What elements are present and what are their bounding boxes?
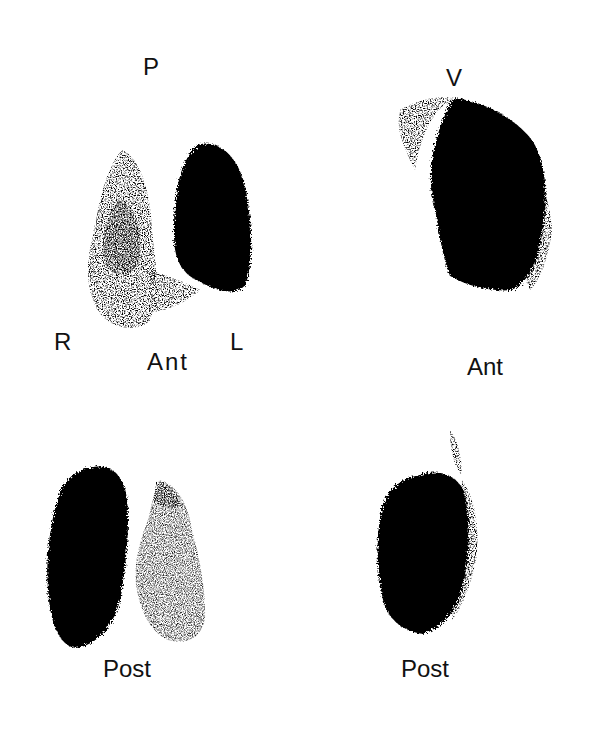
label-view-posterior-right: Post — [401, 657, 449, 681]
panel-bottom-left-scan — [47, 467, 205, 648]
label-view-posterior-left: Post — [103, 657, 151, 681]
label-posterior-top: P — [143, 55, 159, 79]
panel-bottom-right-scan — [378, 430, 478, 634]
label-ventral-top: V — [446, 66, 462, 90]
label-view-anterior-right: Ant — [467, 355, 503, 379]
label-right-side: R — [54, 330, 71, 354]
scintigraphy-images — [0, 0, 595, 730]
panel-top-left-scan — [88, 143, 251, 328]
label-left-side: L — [230, 330, 243, 354]
label-view-anterior-left: Ant — [147, 350, 189, 374]
panel-top-right-scan — [399, 97, 552, 290]
